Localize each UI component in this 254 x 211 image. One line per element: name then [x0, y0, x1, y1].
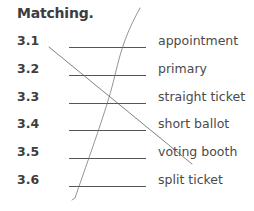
answer-blank[interactable]	[69, 47, 146, 48]
answer-blank[interactable]	[69, 75, 146, 76]
item-number: 3.4	[17, 116, 39, 131]
term-label: appointment	[158, 33, 238, 48]
matching-row: 3.3 straight ticket	[0, 89, 254, 109]
answer-blank[interactable]	[69, 186, 146, 187]
answer-blank[interactable]	[69, 130, 146, 131]
term-label: voting booth	[158, 144, 237, 159]
matching-row: 3.1 appointment	[0, 33, 254, 53]
term-label: straight ticket	[158, 89, 245, 104]
term-label: short ballot	[158, 116, 229, 131]
term-label: primary	[158, 61, 207, 76]
matching-row: 3.6 split ticket	[0, 172, 254, 192]
item-number: 3.3	[17, 89, 39, 104]
term-label: split ticket	[158, 172, 223, 187]
item-number: 3.1	[17, 33, 39, 48]
matching-row: 3.2 primary	[0, 61, 254, 81]
answer-blank[interactable]	[69, 103, 146, 104]
matching-row: 3.4 short ballot	[0, 116, 254, 136]
answer-blank[interactable]	[69, 158, 146, 159]
item-number: 3.2	[17, 61, 39, 76]
matching-row: 3.5 voting booth	[0, 144, 254, 164]
section-title: Matching.	[17, 5, 94, 21]
item-number: 3.5	[17, 144, 39, 159]
item-number: 3.6	[17, 172, 39, 187]
